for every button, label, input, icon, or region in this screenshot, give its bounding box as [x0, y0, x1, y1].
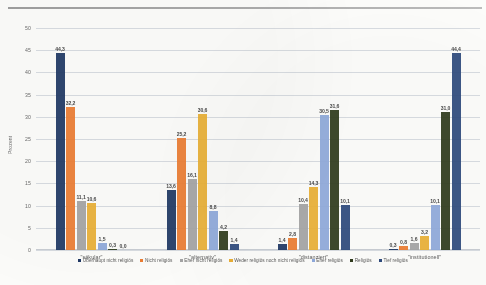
- y-axis-tick-label: 0: [28, 247, 31, 253]
- bar-value-label: 0,8: [400, 239, 407, 245]
- bar-value-label: 0,3: [390, 242, 397, 248]
- bar-value-label: 1,6: [411, 236, 418, 242]
- bar[interactable]: [108, 249, 117, 250]
- bar[interactable]: [198, 114, 207, 250]
- bar-value-label: 14,3: [309, 180, 319, 186]
- bar-value-label: 1,4: [231, 237, 238, 243]
- bar[interactable]: [56, 53, 65, 250]
- bar-slot: 3,2: [420, 28, 429, 250]
- bar-slot: 0,3: [389, 28, 398, 250]
- bar-slot: 0,3: [108, 28, 117, 250]
- y-axis-tick-label: 30: [25, 114, 31, 120]
- bar[interactable]: [278, 244, 287, 250]
- bar-value-label: 25,2: [177, 131, 187, 137]
- legend-item[interactable]: Religiös: [350, 258, 372, 263]
- bar[interactable]: [299, 204, 308, 250]
- legend-swatch-icon: [140, 259, 143, 262]
- bar[interactable]: [330, 110, 339, 250]
- bar-group: 13,625,216,130,68,84,21,4"alternativ": [147, 28, 258, 250]
- bar-slot: 11,1: [77, 28, 86, 250]
- bar-slot: 2,8: [288, 28, 297, 250]
- legend-label: Nicht religiös: [145, 258, 173, 263]
- bar-value-label: 44,4: [451, 46, 461, 52]
- bar[interactable]: [219, 231, 228, 250]
- legend-swatch-icon: [312, 259, 315, 262]
- chart-legend: Überhaupt nicht religiösNicht religiösEh…: [0, 258, 486, 263]
- bar-value-label: 8,8: [210, 204, 217, 210]
- bar[interactable]: [320, 115, 329, 250]
- bar-slot: 0,0: [119, 28, 128, 250]
- bar-slot: 1,4: [278, 28, 287, 250]
- bar-groups: 44,332,211,110,61,50,30,0"säkular"13,625…: [36, 28, 480, 250]
- bar[interactable]: [441, 112, 450, 250]
- bar-slot: 30,6: [198, 28, 207, 250]
- bar-value-label: 44,3: [55, 46, 65, 52]
- bar-value-label: 30,5: [319, 108, 329, 114]
- bar[interactable]: [66, 107, 75, 250]
- bar-group: 1,42,810,414,330,531,610,1"distanziert": [258, 28, 369, 250]
- bar[interactable]: [87, 203, 96, 250]
- y-axis-tick-label: 15: [25, 180, 31, 186]
- bar-value-label: 31,6: [330, 103, 340, 109]
- bar[interactable]: [177, 138, 186, 250]
- legend-label: Weder religiös noch nicht religiös: [234, 258, 304, 263]
- y-axis-tick-label: 10: [25, 203, 31, 209]
- legend-label: Religiös: [355, 258, 372, 263]
- bar-value-label: 4,2: [220, 224, 227, 230]
- chart-page: Prozent 05101520253035404550 44,332,211,…: [0, 0, 486, 285]
- bar[interactable]: [230, 244, 239, 250]
- legend-item[interactable]: Eher religiös: [312, 258, 343, 263]
- bar[interactable]: [98, 243, 107, 250]
- bar-value-label: 0,0: [120, 243, 127, 249]
- bar[interactable]: [288, 238, 297, 250]
- bar[interactable]: [431, 205, 440, 250]
- bar-slot: 31,0: [441, 28, 450, 250]
- bar-value-label: 2,8: [289, 231, 296, 237]
- legend-swatch-icon: [379, 259, 382, 262]
- legend-label: Eher nicht religiös: [184, 258, 222, 263]
- bar[interactable]: [420, 236, 429, 250]
- bar-value-label: 0,3: [109, 242, 116, 248]
- bar-slot: 1,5: [98, 28, 107, 250]
- y-axis-tick-label: 20: [25, 158, 31, 164]
- bar-slot: 32,2: [66, 28, 75, 250]
- legend-item[interactable]: Überhaupt nicht religiös: [78, 258, 133, 263]
- bar-value-label: 3,2: [421, 229, 428, 235]
- bar[interactable]: [399, 246, 408, 250]
- plot-area: 05101520253035404550 44,332,211,110,61,5…: [36, 28, 480, 250]
- bar[interactable]: [167, 190, 176, 250]
- bar-slot: 31,6: [330, 28, 339, 250]
- bar[interactable]: [188, 179, 197, 250]
- y-axis-tick-label: 5: [28, 225, 31, 231]
- y-axis-tick-label: 45: [25, 47, 31, 53]
- bar-value-label: 31,0: [441, 105, 451, 111]
- y-axis-tick-label: 35: [25, 92, 31, 98]
- bar-slot: 8,8: [209, 28, 218, 250]
- legend-item[interactable]: Tief religiös: [379, 258, 408, 263]
- bar-slot: 1,4: [230, 28, 239, 250]
- y-axis-tick-label: 25: [25, 136, 31, 142]
- bar[interactable]: [341, 205, 350, 250]
- bar[interactable]: [410, 243, 419, 250]
- bar-slot: 10,1: [341, 28, 350, 250]
- legend-label: Überhaupt nicht religiös: [83, 258, 133, 263]
- bar-slot: 44,4: [452, 28, 461, 250]
- bar[interactable]: [309, 187, 318, 250]
- legend-item[interactable]: Weder religiös noch nicht religiös: [229, 258, 304, 263]
- bar[interactable]: [77, 201, 86, 250]
- bar[interactable]: [389, 249, 398, 250]
- legend-item[interactable]: Eher nicht religiös: [180, 258, 223, 263]
- bar[interactable]: [209, 211, 218, 250]
- bar-value-label: 11,1: [76, 194, 85, 200]
- legend-item[interactable]: Nicht religiös: [140, 258, 172, 263]
- bar-slot: 0,8: [399, 28, 408, 250]
- bar[interactable]: [452, 53, 461, 250]
- bar-slot: 44,3: [56, 28, 65, 250]
- y-axis-tick-label: 50: [25, 25, 31, 31]
- bar-group: 0,30,81,63,210,131,044,4"institutionell": [369, 28, 480, 250]
- legend-swatch-icon: [78, 259, 81, 262]
- bar-slot: 10,1: [431, 28, 440, 250]
- bar-value-label: 10,1: [340, 198, 350, 204]
- bar-slot: 10,4: [299, 28, 308, 250]
- bar-group: 44,332,211,110,61,50,30,0"säkular": [36, 28, 147, 250]
